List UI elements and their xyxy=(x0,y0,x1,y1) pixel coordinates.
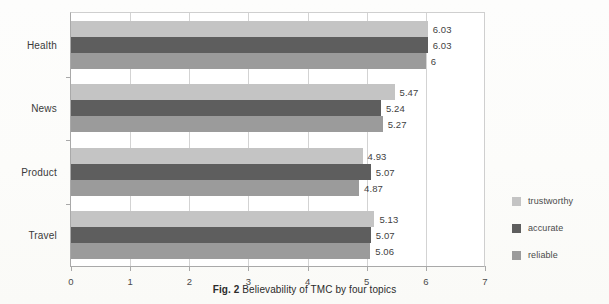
x-axis-tick xyxy=(71,266,72,271)
bar[interactable] xyxy=(71,84,395,100)
bar-value-label: 6 xyxy=(431,55,436,66)
y-axis-category-label: News xyxy=(31,103,57,114)
legend: trustworthyaccuratereliable xyxy=(512,196,573,260)
legend-label: accurate xyxy=(528,223,563,233)
x-axis-tick xyxy=(248,266,249,271)
y-axis-category-label: Travel xyxy=(28,230,57,241)
bar-value-label: 5.07 xyxy=(376,166,395,177)
bar[interactable] xyxy=(71,37,428,53)
legend-item[interactable]: trustworthy xyxy=(512,196,573,206)
legend-item[interactable]: accurate xyxy=(512,223,573,233)
legend-swatch xyxy=(512,251,521,260)
bar[interactable] xyxy=(71,53,426,69)
bar-row: 6.03 xyxy=(71,37,484,53)
bar[interactable] xyxy=(71,243,370,259)
figure: 6.036.0365.475.245.274.935.074.875.135.0… xyxy=(0,0,609,304)
bar[interactable] xyxy=(71,100,381,116)
legend-label: trustworthy xyxy=(528,196,573,206)
bar-value-label: 5.24 xyxy=(386,103,405,114)
x-axis-tick xyxy=(426,266,427,271)
bar-value-label: 4.93 xyxy=(368,150,387,161)
y-axis-category-label: Health xyxy=(27,39,57,50)
bar-value-label: 5.06 xyxy=(375,246,394,257)
caption-prefix: Fig. 2 xyxy=(213,284,240,295)
bar-value-label: 6.03 xyxy=(433,39,452,50)
y-axis-tick xyxy=(66,140,71,141)
y-axis-tick xyxy=(66,77,71,78)
bar-value-label: 5.27 xyxy=(388,119,407,130)
bar-row: 5.13 xyxy=(71,211,484,227)
bar-row: 6 xyxy=(71,53,484,69)
bar[interactable] xyxy=(71,164,371,180)
bar-row: 5.27 xyxy=(71,116,484,132)
bar[interactable] xyxy=(71,211,374,227)
x-axis-tick xyxy=(485,266,486,271)
x-axis-tick xyxy=(189,266,190,271)
y-axis-category-label: Product xyxy=(21,166,57,177)
legend-swatch xyxy=(512,224,521,233)
figure-caption: Fig. 2 Believability of TMC by four topi… xyxy=(0,284,609,295)
bar-row: 5.07 xyxy=(71,164,484,180)
plot-area: 6.036.0365.475.245.274.935.074.875.135.0… xyxy=(70,12,485,267)
bar-group: 4.935.074.87 xyxy=(71,140,484,204)
bar-row: 4.93 xyxy=(71,148,484,164)
bar-value-label: 4.87 xyxy=(364,182,383,193)
x-axis-tick xyxy=(130,266,131,271)
x-axis-tick xyxy=(308,266,309,271)
bar-value-label: 5.47 xyxy=(400,87,419,98)
legend-swatch xyxy=(512,197,521,206)
bar-value-label: 6.03 xyxy=(433,23,452,34)
bar-row: 5.24 xyxy=(71,100,484,116)
bar[interactable] xyxy=(71,21,428,37)
bar-row: 4.87 xyxy=(71,180,484,196)
bar[interactable] xyxy=(71,227,371,243)
bar[interactable] xyxy=(71,180,359,196)
bar-row: 5.07 xyxy=(71,227,484,243)
caption-text: Believability of TMC by four topics xyxy=(242,284,396,295)
bar-group: 5.475.245.27 xyxy=(71,77,484,141)
legend-item[interactable]: reliable xyxy=(512,250,573,260)
bar-group: 6.036.036 xyxy=(71,13,484,77)
x-axis-tick xyxy=(367,266,368,271)
bar-groups: 6.036.0365.475.245.274.935.074.875.135.0… xyxy=(71,13,484,266)
bar-group: 5.135.075.06 xyxy=(71,204,484,268)
bar-value-label: 5.13 xyxy=(379,214,398,225)
legend-label: reliable xyxy=(528,250,558,260)
bar-row: 6.03 xyxy=(71,21,484,37)
bar-value-label: 5.07 xyxy=(376,230,395,241)
bar-row: 5.06 xyxy=(71,243,484,259)
y-axis-tick xyxy=(66,204,71,205)
bar[interactable] xyxy=(71,148,363,164)
bar-row: 5.47 xyxy=(71,84,484,100)
bar[interactable] xyxy=(71,116,383,132)
